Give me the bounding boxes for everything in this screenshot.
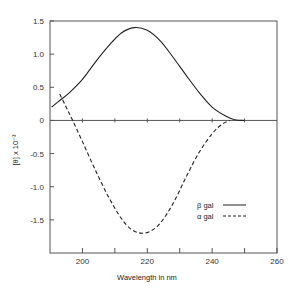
y-tick-label: 0.5 [33, 83, 45, 92]
y-tick-label: -1.0 [30, 183, 44, 192]
x-tick-label: 200 [76, 257, 90, 266]
data-series [52, 28, 245, 234]
y-tick-label: 1.0 [33, 50, 45, 59]
legend-label-beta-gal: β gal [197, 201, 214, 210]
legend: β gal α gal [197, 201, 246, 221]
x-axis-ticks: 200220240260 [76, 248, 284, 266]
series-line-beta-gal [52, 28, 245, 121]
y-axis-label: [θ] x 10⁻³ [11, 134, 20, 166]
x-tick-label: 240 [205, 257, 219, 266]
cd-spectrum-chart: 1.51.00.50-0.5-1.0-1.5 200220240260 Wave… [0, 0, 299, 290]
x-tick-label: 220 [141, 257, 155, 266]
x-tick-label: 260 [270, 257, 284, 266]
y-tick-label: -1.5 [30, 216, 44, 225]
x-axis-label: Wavelength in nm [117, 273, 177, 282]
legend-label-alpha-gal: α gal [197, 212, 214, 221]
y-tick-label: -0.5 [30, 150, 44, 159]
plot-frame [50, 21, 277, 253]
y-tick-label: 0 [40, 116, 45, 125]
y-tick-label: 1.5 [33, 17, 45, 26]
